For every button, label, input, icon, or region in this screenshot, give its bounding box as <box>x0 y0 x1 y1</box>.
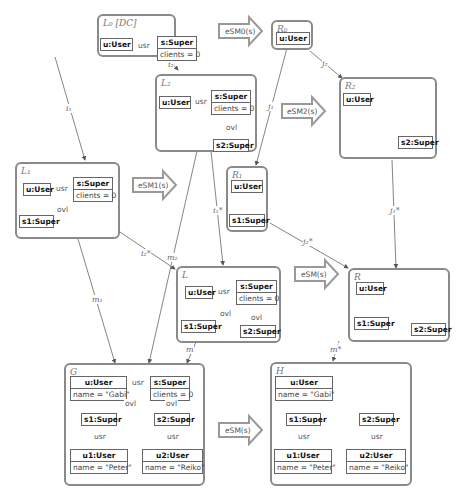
panel-label: R₁ <box>232 170 242 180</box>
edge-label-usr: usr <box>297 432 311 441</box>
object-s2-super: s2:Super <box>411 323 446 336</box>
diagram-canvas: eSM0(s) eSM2(s) eSM1(s) eSM(s) eSM(s) i₁… <box>0 0 462 498</box>
panel-label: R <box>354 272 361 282</box>
panel-label: L <box>182 270 188 280</box>
morphism-label-m2: m₂ <box>167 253 178 262</box>
object-u-user: u:Username = "Gabi" <box>275 376 333 401</box>
object-s1-super: s1:Super <box>286 413 321 426</box>
object-s1-super: s1:Super <box>354 317 389 330</box>
object-u-user: u:User <box>276 32 310 45</box>
rule-label-esm: eSM(s) <box>300 270 328 279</box>
edge-label-usr: usr <box>137 41 151 50</box>
object-u-user: u:User <box>356 282 384 295</box>
edge-label-usr: usr <box>131 378 145 387</box>
morphism-label-j2s: j₂* <box>303 237 313 246</box>
morphism-label-j1s: j₁* <box>390 206 400 215</box>
edge-label-usr: usr <box>166 432 180 441</box>
edge-label-usr: usr <box>370 432 384 441</box>
morphism-label-m1: m₁ <box>92 295 103 304</box>
morphism-label-m: m <box>186 345 194 354</box>
morphism-label-i2: i₂ <box>168 60 174 69</box>
object-s1-super: s1:Super <box>229 214 265 227</box>
panel-label: H <box>276 366 284 376</box>
edge-label-ovl: ovl <box>219 309 232 318</box>
object-s-super: s:Superclients = 0 <box>73 177 113 202</box>
edge-label-ovl: ovl <box>250 313 263 322</box>
morphism-label-j2: j₂ <box>322 59 328 68</box>
object-s2-super: s2:Super <box>240 325 276 338</box>
object-s2-super: s2:Super <box>154 413 190 426</box>
edge-label-usr: usr <box>217 287 231 296</box>
rule-label-esm1: eSM1(s) <box>137 181 169 190</box>
object-u1-user: u1:Username = "Peter" <box>274 449 332 474</box>
morphism-label-ms: m* <box>330 345 342 354</box>
object-s2-super: s2:Super <box>398 136 433 149</box>
object-s1-super: s1:Super <box>181 320 216 333</box>
object-u2-user: u2:Username = "Reiko" <box>346 449 406 474</box>
morphism-label-i1s: i₁* <box>213 206 223 215</box>
object-s2-super: s2:Super <box>213 139 249 152</box>
object-u2-user: u2:Username = "Reiko" <box>142 449 203 474</box>
object-u-user: u:User <box>23 183 51 196</box>
morphism-label-i1: i₁ <box>66 104 72 113</box>
morphism-label-i2s: i₂* <box>141 249 151 258</box>
object-s-super: s:Superclients = 0 <box>150 376 190 401</box>
panel-label: L₁ <box>21 166 31 176</box>
object-s-super: s:Superclients = 0 <box>236 280 277 305</box>
rule-label-esm0: eSM0(s) <box>224 27 256 36</box>
panel-label: L₀ [DC] <box>103 18 137 28</box>
object-u-user: u:Username = "Gabi" <box>70 376 127 401</box>
object-u-user: u:User <box>343 93 371 106</box>
edge-label-ovl: ovl <box>225 123 238 132</box>
edge-label-usr: usr <box>93 432 107 441</box>
object-u-user: u:User <box>231 180 263 193</box>
edge-label-usr: usr <box>55 184 69 193</box>
object-s-super: s:Superclients = 0 <box>211 90 251 115</box>
object-s1-super: s1:Super <box>81 413 117 426</box>
edge-label-ovl: ovl <box>56 205 69 214</box>
edge-label-ovl: ovl <box>165 399 178 408</box>
object-s2-super: s2:Super <box>359 413 394 426</box>
object-u1-user: u1:Username = "Peter" <box>70 449 128 474</box>
panel-label: R₂ <box>345 81 355 91</box>
object-u-user: u:User <box>159 96 191 109</box>
rule-label-esm2: eSM2(s) <box>286 107 318 116</box>
object-s1-super: s1:Super <box>19 215 54 228</box>
morphism-label-j1: j₁ <box>268 102 274 111</box>
object-u-user: u:User <box>100 38 133 51</box>
object-s-super: s:Superclients = 0 <box>157 36 197 61</box>
edge-label-usr: usr <box>194 97 208 106</box>
edge-label-ovl: ovl <box>124 399 137 408</box>
object-u-user: u:User <box>185 286 213 299</box>
panel-label: L₂ <box>161 78 171 88</box>
rule-label-esm-g: eSM(s) <box>224 426 252 435</box>
